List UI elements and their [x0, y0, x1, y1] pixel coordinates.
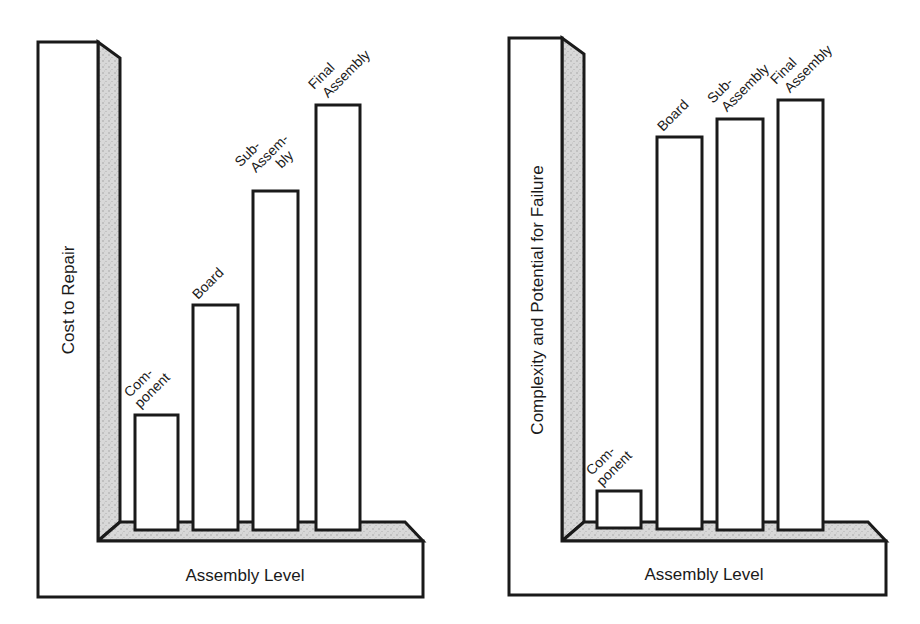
bar-final-assembly [778, 100, 823, 530]
bar-sub-assembly [717, 119, 763, 530]
label-component: Com- ponent [121, 359, 173, 411]
bar-sub-assembly [253, 191, 298, 530]
x-axis-label: Assembly Level [644, 565, 763, 584]
bar-component [597, 491, 641, 528]
bar-component [135, 415, 178, 530]
svg-text:Board: Board [189, 264, 227, 302]
y-wall-side-face [98, 42, 120, 541]
label-sub-assembly: Sub- Assembly [704, 49, 772, 117]
chart-cost-to-repair: Cost to Repair Assembly Level Com- ponen… [38, 35, 423, 597]
y-axis-label: Complexity and Potential for Failure [528, 165, 547, 434]
chart-complexity-failure: Complexity and Potential for Failure Ass… [509, 30, 886, 595]
label-final-assembly: Final Assembly [767, 30, 835, 98]
svg-text:Board: Board [654, 96, 692, 134]
y-wall-side-face [562, 38, 584, 541]
label-board: Board [189, 264, 227, 302]
label-sub-assembly: Sub- Assem- bly [231, 120, 302, 191]
diagram-canvas: Cost to Repair Assembly Level Com- ponen… [0, 0, 920, 624]
x-axis-label: Assembly Level [185, 566, 304, 585]
y-axis-label: Cost to Repair [59, 245, 78, 354]
bar-board [657, 137, 702, 529]
bar-final-assembly [316, 105, 360, 530]
label-final-assembly: Final Assembly [305, 35, 373, 103]
label-board: Board [654, 96, 692, 134]
label-component: Com- ponent [583, 437, 635, 489]
bar-board [193, 305, 238, 530]
